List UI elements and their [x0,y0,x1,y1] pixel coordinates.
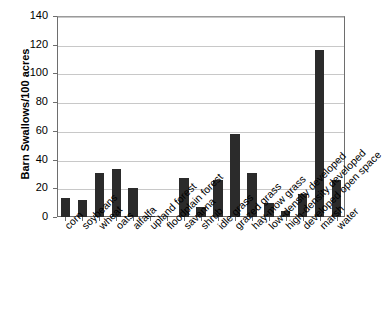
y-tick-label: 100 [0,66,48,78]
y-tick-label: 40 [0,153,48,165]
y-tick-label: 140 [0,9,48,21]
y-tick-label: 60 [0,124,48,136]
y-tick-mark [53,217,57,218]
y-tick-label: 120 [0,38,48,50]
y-tick-label: 80 [0,95,48,107]
bar [61,198,71,217]
y-tick-label: 20 [0,181,48,193]
y-tick-label: 0 [0,210,48,222]
